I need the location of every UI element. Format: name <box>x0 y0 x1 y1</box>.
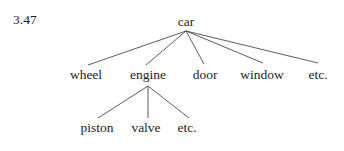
figure-container: 3.47 car wheelenginedoorwindowetc.piston… <box>0 0 344 151</box>
tree-node-etc-level3: etc. <box>177 121 196 135</box>
tree-node-door-level2: door <box>193 68 218 82</box>
tree-node-window-level2: window <box>240 68 284 82</box>
edge-engine-child-0 <box>98 86 148 118</box>
tree-node-piston-level3: piston <box>80 121 113 135</box>
edge-car-child-1 <box>146 31 186 65</box>
edge-car-child-0 <box>88 31 186 65</box>
edge-engine-child-2 <box>148 86 189 118</box>
engine-edge-group <box>98 86 189 118</box>
tree-node-valve-level3: valve <box>131 121 160 135</box>
tree-node-wheel-level2: wheel <box>70 68 102 82</box>
tree-node-etc-level2: etc. <box>308 68 327 82</box>
tree-edges <box>0 0 344 151</box>
root-edge-group <box>88 31 318 65</box>
tree-node-car: car <box>178 15 194 29</box>
edge-car-child-2 <box>186 31 204 64</box>
tree-node-engine-level2: engine <box>130 68 166 82</box>
